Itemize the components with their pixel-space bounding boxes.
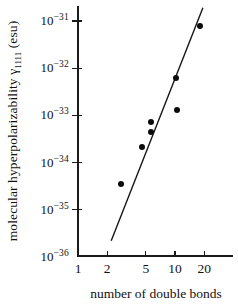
fit-line — [111, 8, 203, 241]
y-tick-exponent: −34 — [54, 154, 69, 164]
y-tick-base: 10 — [41, 60, 54, 75]
x-tick-label: 10 — [168, 261, 182, 277]
y-tick-base: 10 — [41, 249, 54, 264]
y-tick-mark — [72, 209, 82, 210]
y-axis-title-text: molecular hyperpolarizability γ — [5, 69, 20, 242]
data-point — [173, 75, 179, 81]
data-point — [174, 107, 180, 113]
y-tick-exponent: −31 — [54, 12, 69, 22]
y-tick-exponent: −32 — [54, 59, 69, 69]
x-axis-label: number of double bonds — [90, 286, 222, 302]
y-tick-exponent: −36 — [54, 248, 69, 258]
x-tick-label: 1 — [75, 261, 82, 277]
data-point — [148, 129, 154, 135]
y-tick-label: 10−34 — [41, 155, 69, 171]
data-point — [139, 144, 145, 150]
x-tick-mark — [107, 251, 108, 256]
y-tick-base: 10 — [41, 107, 54, 122]
y-axis-title-subscript: 1111 — [13, 52, 23, 69]
data-point — [148, 119, 154, 125]
y-tick-mark — [72, 20, 82, 21]
y-tick-label: 10−35 — [41, 202, 69, 218]
y-tick-base: 10 — [41, 155, 54, 170]
y-tick-label: 10−36 — [41, 249, 69, 265]
y-axis-title-units: (esu) — [5, 21, 20, 52]
y-tick-exponent: −33 — [54, 106, 69, 116]
data-point — [197, 23, 203, 29]
x-tick-mark — [145, 251, 146, 256]
y-axis-line — [77, 6, 79, 257]
y-tick-mark — [72, 68, 82, 69]
x-tick-label: 2 — [104, 261, 111, 277]
y-tick-label: 10−31 — [41, 13, 69, 29]
x-tick-label: 5 — [142, 261, 149, 277]
x-axis-line — [78, 255, 233, 257]
y-tick-base: 10 — [41, 13, 54, 28]
y-tick-mark — [72, 115, 82, 116]
y-tick-exponent: −35 — [54, 201, 69, 211]
y-axis-title: molecular hyperpolarizability γ1111 (esu… — [5, 21, 23, 241]
y-tick-mark — [72, 162, 82, 163]
chart: molecular hyperpolarizability γ1111 (esu… — [0, 0, 238, 306]
data-point — [118, 181, 124, 187]
y-tick-label: 10−32 — [41, 60, 69, 76]
y-tick-base: 10 — [41, 202, 54, 217]
x-tick-label: 20 — [197, 261, 211, 277]
x-tick-mark — [204, 251, 205, 256]
y-tick-label: 10−33 — [41, 107, 69, 123]
x-tick-mark — [174, 251, 175, 256]
